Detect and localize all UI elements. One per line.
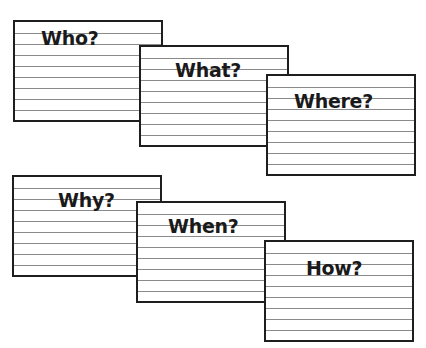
- card-title: How?: [266, 257, 412, 279]
- card-title: When?: [138, 215, 284, 237]
- card-where: Where?: [266, 74, 416, 176]
- cropped-heading: [0, 0, 426, 5]
- card-how: How?: [264, 240, 414, 342]
- card-title: Where?: [268, 90, 414, 112]
